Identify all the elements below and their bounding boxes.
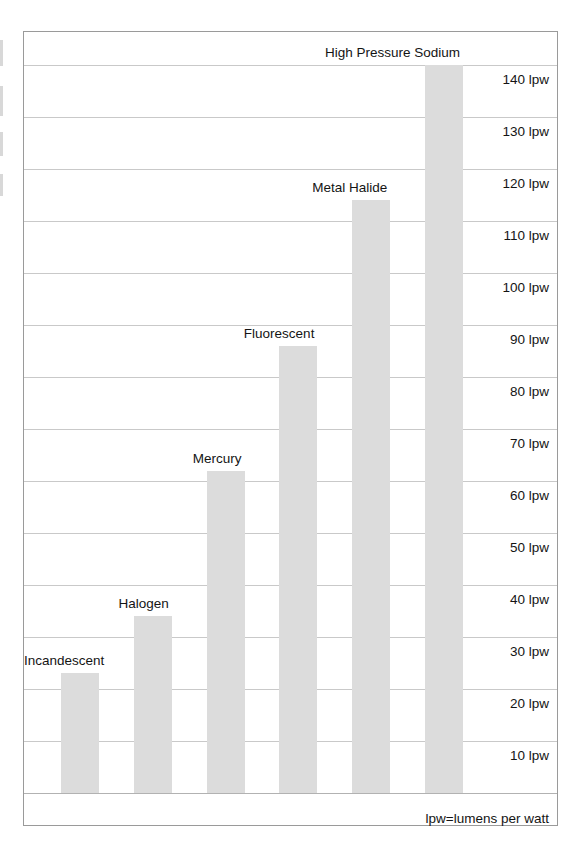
- bar-high-pressure-sodium[interactable]: [425, 65, 463, 793]
- bar-label-incandescent: Incandescent: [24, 654, 96, 668]
- gridline: [24, 169, 557, 170]
- scan-edge-mark: [0, 86, 3, 116]
- y-axis-tick-label: 110 lpw: [503, 229, 549, 243]
- bar-label-halogen: Halogen: [24, 597, 169, 611]
- y-axis-tick-label: 20 lpw: [510, 697, 549, 711]
- y-axis-tick-label: 30 lpw: [510, 645, 549, 659]
- scan-edge-mark: [0, 174, 3, 196]
- y-axis-tick-label: 50 lpw: [510, 541, 549, 555]
- bar-mercury[interactable]: [207, 471, 245, 793]
- y-axis-tick-label: 120 lpw: [502, 177, 549, 191]
- y-axis-tick-label: 90 lpw: [510, 333, 549, 347]
- y-axis-tick-label: 100 lpw: [502, 281, 549, 295]
- y-axis-tick-label: 10 lpw: [510, 749, 549, 763]
- bar-fluorescent[interactable]: [279, 346, 317, 793]
- bar-label-fluorescent: Fluorescent: [24, 327, 314, 341]
- plot-area: 10 lpw20 lpw30 lpw40 lpw50 lpw60 lpw70 l…: [24, 32, 557, 825]
- y-axis-tick-label: 70 lpw: [510, 437, 549, 451]
- chart-frame: 10 lpw20 lpw30 lpw40 lpw50 lpw60 lpw70 l…: [23, 31, 558, 826]
- gridline: [24, 221, 557, 222]
- gridline: [24, 65, 557, 66]
- bar-label-metal-halide: Metal Halide: [24, 181, 387, 195]
- y-axis-tick-label: 140 lpw: [502, 73, 549, 87]
- scan-edge-mark: [0, 132, 3, 156]
- axis-baseline: [24, 793, 557, 794]
- y-axis-tick-label: 40 lpw: [510, 593, 549, 607]
- gridline: [24, 273, 557, 274]
- bar-incandescent[interactable]: [61, 673, 99, 793]
- chart-footnote: lpw=lumens per watt: [426, 812, 549, 826]
- gridline: [24, 117, 557, 118]
- bar-halogen[interactable]: [134, 616, 172, 793]
- scan-edge-mark: [0, 40, 3, 66]
- y-axis-tick-label: 130 lpw: [502, 125, 549, 139]
- bar-label-high-pressure-sodium: High Pressure Sodium: [24, 46, 460, 60]
- bar-label-mercury: Mercury: [24, 452, 242, 466]
- bar-metal-halide[interactable]: [352, 200, 390, 793]
- y-axis-tick-label: 80 lpw: [510, 385, 549, 399]
- y-axis-tick-label: 60 lpw: [510, 489, 549, 503]
